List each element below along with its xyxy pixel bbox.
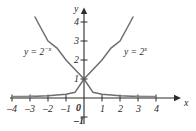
x-tick-label-4: 4 [154,104,159,114]
x-tick-label-neg4: ‒4 [7,104,17,114]
curve-label-right-base: y = 2 [124,47,144,57]
x-axis-label: x [184,98,188,108]
y-axis-label: y [74,4,78,14]
y-tick-label-2: 2 [74,55,79,65]
curve-label-two-to-the-x: y = 2x [124,48,147,58]
y-axis [81,8,87,125]
intersection-point [82,77,85,80]
origin-tick-label: 0 [76,103,81,113]
y-tick-label-4: 4 [74,17,79,27]
x-tick-label-neg1: ‒1 [61,104,71,114]
y-tick-label-neg1: ‒1 [74,116,84,126]
x-tick-label-2: 2 [118,104,123,114]
x-tick-label-3: 3 [136,104,141,114]
y-tick-label-3: 3 [74,36,79,46]
x-tick-label-neg3: ‒3 [25,104,35,114]
x-tick-label-1: 1 [100,104,105,114]
exponential-functions-graph: y x 0 ‒4 ‒3 ‒2 ‒1 1 2 3 4 1 2 3 4 ‒1 y =… [0,0,196,131]
curve-label-left-base: y = 2 [24,47,44,57]
x-tick-label-neg2: ‒2 [43,104,53,114]
y-tick-label-1: 1 [74,74,79,84]
curve-label-left-exponent: −x [44,45,51,52]
curve-label-two-to-the-negative-x: y = 2−x [24,48,51,58]
curve-label-right-exponent: x [144,45,147,52]
